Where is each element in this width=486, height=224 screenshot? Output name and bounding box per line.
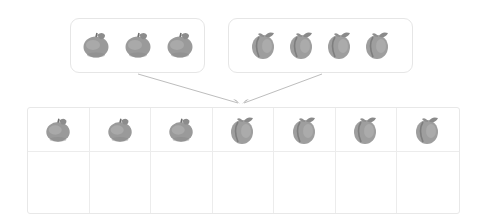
apple-icon	[105, 115, 135, 145]
grid-cell-empty	[274, 152, 336, 213]
grid-cell-empty	[336, 152, 398, 213]
peach-icon	[227, 114, 259, 146]
grid-cell-empty	[397, 152, 459, 213]
grid-cell	[397, 108, 459, 152]
grid-cell	[336, 108, 398, 152]
fruit-grid	[27, 107, 460, 214]
grid-cell-empty	[213, 152, 275, 213]
grid-cell	[151, 108, 213, 152]
grid-cell-empty	[151, 152, 213, 213]
grid-cell	[274, 108, 336, 152]
peach-icon	[412, 114, 444, 146]
grid-cell	[213, 108, 275, 152]
grid-cell-empty	[90, 152, 152, 213]
apple-icon	[43, 115, 73, 145]
grid-cell	[90, 108, 152, 152]
grid-cell	[28, 108, 90, 152]
peach-icon	[289, 114, 321, 146]
grid-cell-empty	[28, 152, 90, 213]
apple-icon	[166, 115, 196, 145]
peach-icon	[350, 114, 382, 146]
